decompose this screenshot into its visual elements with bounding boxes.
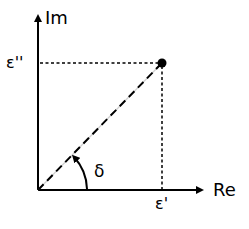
delta-angle-label: δ xyxy=(94,163,104,180)
imaginary-axis-label: Im xyxy=(45,9,68,27)
epsilon-double-prime-label: ε'' xyxy=(6,55,23,71)
epsilon-prime-label: ε' xyxy=(155,196,168,212)
complex-plane-diagram: Im Re ε'' ε' δ xyxy=(0,0,249,229)
real-axis-label: Re xyxy=(213,181,236,199)
angle-arc xyxy=(74,157,87,189)
complex-point-marker xyxy=(158,59,167,68)
diagram-canvas xyxy=(0,0,249,229)
